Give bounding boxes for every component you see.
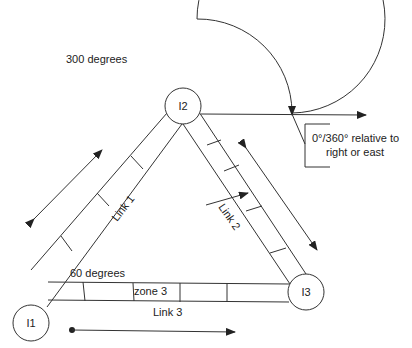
reference-label-line2: right or east — [326, 146, 384, 158]
link-3-label: Link 3 — [153, 306, 182, 318]
node-i2[interactable]: I2 — [165, 88, 201, 124]
link-2-label: Link 2 — [216, 201, 243, 232]
node-i1[interactable]: I1 — [13, 305, 49, 341]
angle-60-label: 60 degrees — [70, 267, 126, 279]
node-i3[interactable]: I3 — [288, 274, 324, 310]
zone-3-label: zone 3 — [134, 285, 167, 297]
east-reference-arrow — [201, 114, 366, 115]
link-3 — [48, 282, 289, 302]
reference-leader-line — [292, 114, 305, 144]
reference-label-line1: 0°/360° relative to — [312, 132, 399, 144]
link-2 — [183, 112, 306, 284]
link-1-label: Link 1 — [109, 193, 137, 224]
angle-300-label: 300 degrees — [66, 53, 128, 65]
node-i1-label: I1 — [26, 317, 35, 329]
link-3-direction-arrow — [72, 330, 235, 332]
node-i3-label: I3 — [301, 286, 310, 298]
angle-300-arc — [197, 0, 385, 113]
intersection-diagram: 0°/360° relative to right or east 300 de… — [0, 0, 412, 348]
link-1-direction-arrow — [34, 150, 102, 219]
node-i2-label: I2 — [178, 100, 187, 112]
